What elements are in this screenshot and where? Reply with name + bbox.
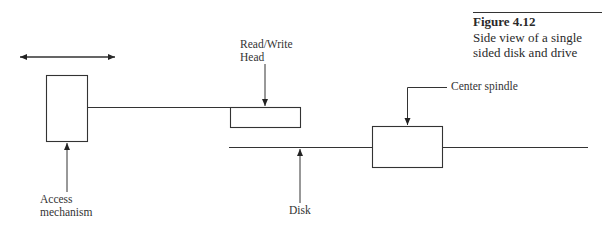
figure-number: Figure 4.12: [473, 14, 608, 30]
figure-caption: Figure 4.12 Side view of a single sided …: [473, 14, 608, 61]
figure-caption-line1: Side view of a single: [473, 30, 608, 46]
center-spindle-label: Center spindle: [451, 80, 518, 93]
access-mechanism-box: [47, 76, 88, 142]
disk-label: Disk: [289, 204, 311, 217]
caption-rule: [473, 12, 602, 13]
read-write-head-label: Read/Write Head: [240, 38, 293, 64]
access-mechanism-label: Access mechanism: [40, 193, 92, 219]
figure-caption-line2: sided disk and drive: [473, 45, 608, 61]
center-spindle-leader: [408, 88, 448, 119]
read-write-head-box: [231, 108, 301, 128]
center-spindle-box: [373, 127, 443, 168]
